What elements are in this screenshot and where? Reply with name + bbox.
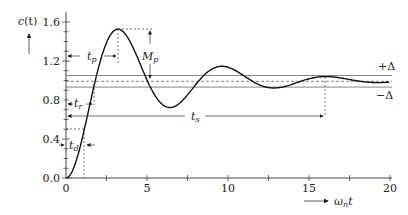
svg-text:10: 10 [221,182,235,195]
mp-label: Mp [141,50,158,64]
tp-label: tp [87,50,97,64]
step-response-diagram: 0.0 0.4 0.8 1.2 1.6 0 5 10 15 20 c(t) ωn… [0,0,408,215]
ts-label: ts [191,110,200,124]
svg-text:1.6: 1.6 [43,16,61,29]
response-curve [66,29,389,178]
td-label: td [69,139,79,153]
svg-text:0: 0 [63,182,70,195]
tr-label: tr [74,97,83,111]
svg-text:20: 20 [383,182,397,195]
svg-text:ωnt: ωnt [334,195,353,209]
x-axis-label: ωnt [304,195,353,209]
svg-text:c(t): c(t) [18,15,37,28]
svg-text:0.0: 0.0 [43,172,61,185]
x-tick-labels: 0 5 10 15 20 [63,182,398,195]
tolerance-band [66,76,392,88]
axes [66,12,392,178]
td-annotation [59,129,95,178]
svg-text:0.4: 0.4 [43,133,61,146]
svg-text:5: 5 [144,182,151,195]
plus-delta-label: +Δ [378,60,395,73]
svg-text:0.8: 0.8 [43,94,61,107]
minus-delta-label: −Δ [376,89,393,102]
y-axis-label: c(t) [18,15,37,54]
svg-text:1.2: 1.2 [43,55,61,68]
y-tick-labels: 0.0 0.4 0.8 1.2 1.6 [43,16,61,185]
svg-text:15: 15 [302,182,316,195]
